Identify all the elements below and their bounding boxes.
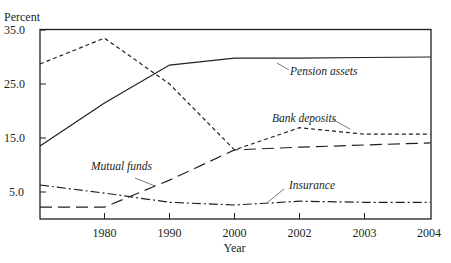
pension-assets-line	[40, 57, 431, 146]
x-axis-title: Year	[223, 241, 245, 255]
y-tick-35: 35.0	[4, 23, 25, 37]
x-tick-1990: 1990	[158, 226, 182, 240]
x-axis	[105, 213, 365, 219]
x-tick-2004: 2004	[417, 226, 441, 240]
pension-assets-label: Pension assets	[289, 65, 358, 77]
y-axis-title: Percent	[4, 10, 41, 24]
mutual-leader-line	[135, 178, 155, 186]
mutual-funds-label: Mutual funds	[90, 160, 153, 173]
y-tick-5: 5.0	[9, 185, 24, 199]
insurance-leader-line	[268, 189, 284, 202]
line-chart: Percent 35.0 25.0 15.0 5.0 1980 1990 200…	[0, 0, 451, 263]
x-tick-2000: 2000	[223, 226, 247, 240]
pension-leader-line	[277, 63, 289, 70]
series-layer	[40, 38, 431, 207]
bank-deposits-line	[40, 38, 431, 150]
bank-deposits-label: Bank deposits	[272, 112, 337, 125]
x-tick-2002: 2002	[288, 226, 312, 240]
insurance-line	[40, 185, 431, 205]
y-axis	[40, 30, 46, 192]
y-tick-25: 25.0	[4, 77, 25, 91]
x-tick-1980: 1980	[93, 226, 117, 240]
mutual-funds-line	[40, 143, 431, 207]
insurance-label: Insurance	[288, 179, 335, 191]
x-tick-2003: 2003	[353, 226, 377, 240]
y-tick-15: 15.0	[4, 131, 25, 145]
